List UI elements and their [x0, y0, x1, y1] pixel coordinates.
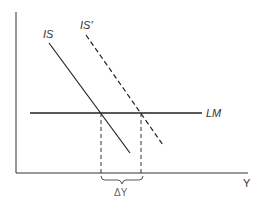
is-lm-diagram: IS IS' LM Y ΔY	[0, 0, 266, 208]
x-axis-label: Y	[243, 177, 251, 189]
lm-label: LM	[206, 107, 222, 119]
delta-y-label: ΔY	[114, 187, 128, 198]
is-label: IS	[43, 28, 54, 40]
is-curve	[49, 43, 130, 153]
is-prime-label: IS'	[80, 19, 93, 31]
delta-y-brace	[101, 176, 143, 184]
is-prime-curve	[86, 35, 163, 145]
